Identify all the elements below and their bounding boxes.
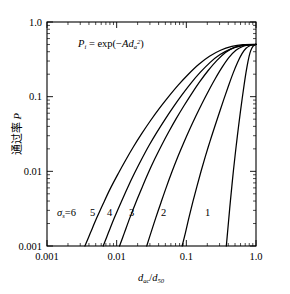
- curve-label-3: 3: [129, 207, 134, 218]
- curve-label-5: 5: [90, 207, 95, 218]
- x-tick-label: 1.0: [249, 251, 262, 262]
- curve-label-1: 1: [205, 207, 210, 218]
- y-tick-label: 0.001: [18, 241, 42, 252]
- figure-container: 0.0010.010.11.0 0.0010.010.11.0 Pi = exp…: [0, 0, 290, 294]
- x-tick-label: 0.001: [35, 251, 59, 262]
- passing-rate-log-log-chart: 0.0010.010.11.0 0.0010.010.11.0 Pi = exp…: [0, 0, 290, 294]
- curve-label-2: 2: [161, 207, 166, 218]
- x-tick-label: 0.01: [107, 251, 125, 262]
- y-tick-label: 1.0: [29, 17, 42, 28]
- y-tick-label: 0.01: [24, 166, 42, 177]
- y-axis-title: 通过率 P: [10, 112, 24, 155]
- curve-label-sigma6: σs=6: [57, 207, 76, 219]
- curve-label-4: 4: [107, 207, 113, 218]
- y-tick-label: 0.1: [29, 91, 42, 102]
- x-tick-label: 0.1: [180, 251, 193, 262]
